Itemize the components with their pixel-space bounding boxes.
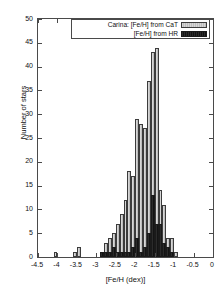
y-axis-tick-label: 30	[9, 110, 33, 117]
y-axis-tick	[209, 138, 213, 139]
y-axis-tick-label: 0	[9, 253, 33, 260]
bars-layer	[38, 19, 213, 257]
legend-swatch-cat	[181, 22, 207, 28]
y-axis-tick	[209, 209, 213, 210]
y-axis-tick-label: 10	[9, 205, 33, 212]
y-axis-tick-label: 15	[9, 181, 33, 188]
x-axis-tick	[96, 253, 97, 257]
legend-item-hr: [Fe/H] from HR	[72, 30, 207, 38]
y-axis-tick-label: 25	[9, 134, 33, 141]
histogram-figure: Number of stars [Fe/H (dex)] 05101520253…	[0, 0, 222, 298]
y-axis-tick	[38, 162, 42, 163]
x-axis-tick	[135, 253, 136, 257]
x-axis-tick	[213, 19, 214, 23]
y-axis-tick	[209, 162, 213, 163]
y-axis-tick	[38, 67, 42, 68]
y-axis-tick-label: 45	[9, 38, 33, 45]
x-axis-tick	[38, 253, 39, 257]
y-axis-tick	[209, 233, 213, 234]
y-axis-tick-label: 35	[9, 86, 33, 93]
x-axis-tick-label: 0	[199, 261, 222, 268]
y-axis-tick	[38, 257, 42, 258]
x-axis-tick	[155, 253, 156, 257]
x-axis-tick	[38, 19, 39, 23]
y-axis-tick-label: 40	[9, 62, 33, 69]
y-axis-tick	[38, 209, 42, 210]
plot-area	[37, 18, 214, 258]
legend-label-hr: [Fe/H] from HR	[134, 30, 178, 38]
y-axis-tick-label: 20	[9, 157, 33, 164]
legend-item-cat: Carina: [Fe/H] from CaT	[72, 21, 207, 29]
y-axis-tick-label: 50	[9, 15, 33, 22]
x-axis-tick	[57, 253, 58, 257]
x-axis-tick	[194, 253, 195, 257]
y-axis-tick-label: 5	[9, 229, 33, 236]
y-axis-tick	[38, 43, 42, 44]
x-axis-tick	[77, 253, 78, 257]
y-axis-tick	[38, 114, 42, 115]
x-axis-tick	[116, 253, 117, 257]
x-axis-tick	[213, 253, 214, 257]
legend: Carina: [Fe/H] from CaT [Fe/H] from HR	[71, 19, 210, 39]
legend-label-cat: Carina: [Fe/H] from CaT	[108, 21, 178, 29]
y-axis-tick	[38, 90, 42, 91]
x-axis-title: [Fe/H (dex)]	[37, 275, 214, 284]
y-axis-tick	[209, 114, 213, 115]
y-axis-tick	[209, 67, 213, 68]
y-axis-tick	[38, 233, 42, 234]
y-axis-tick	[209, 90, 213, 91]
x-axis-tick	[174, 253, 175, 257]
y-axis-tick	[38, 186, 42, 187]
y-axis-tick	[38, 138, 42, 139]
y-axis-tick	[209, 43, 213, 44]
legend-swatch-hr	[181, 31, 207, 37]
x-axis-tick	[57, 19, 58, 23]
y-axis-tick	[209, 257, 213, 258]
y-axis-tick	[209, 186, 213, 187]
